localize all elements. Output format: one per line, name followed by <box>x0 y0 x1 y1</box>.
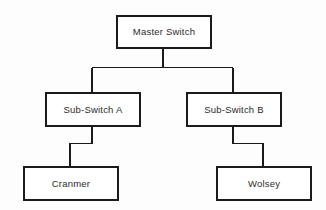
edge-sub-a-cranmer <box>70 127 92 166</box>
node-master-switch-label: Master Switch <box>133 27 195 37</box>
node-sub-switch-b[interactable]: Sub-Switch B <box>186 92 282 127</box>
node-cranmer[interactable]: Cranmer <box>23 166 119 201</box>
edge-sub-b-wolsey <box>233 127 263 166</box>
node-wolsey[interactable]: Wolsey <box>216 166 312 201</box>
node-sub-switch-a-label: Sub-Switch A <box>64 105 123 115</box>
node-sub-switch-a[interactable]: Sub-Switch A <box>45 92 141 127</box>
node-sub-switch-b-label: Sub-Switch B <box>204 105 263 115</box>
node-wolsey-label: Wolsey <box>248 179 280 189</box>
diagram-canvas: Master Switch Sub-Switch A Sub-Switch B … <box>0 0 326 210</box>
node-master-switch[interactable]: Master Switch <box>116 15 212 49</box>
node-cranmer-label: Cranmer <box>52 179 90 189</box>
